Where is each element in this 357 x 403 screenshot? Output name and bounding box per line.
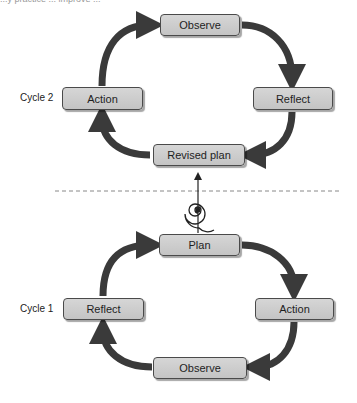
cycle1-observe-node: Observe [153,357,247,379]
cycle1-reflect-node: Reflect [63,298,144,320]
cycle2-action-node: Action [62,87,143,110]
cycle2-observe-node: Observe [160,14,240,36]
arrow-reflect-to-revised-plan [252,112,292,155]
spiral-icon [185,176,214,233]
arrow-observe-to-reflect [242,25,292,78]
cycle2-label: Cycle 2 [20,92,53,103]
arrow-reflect-to-plan [103,245,150,296]
cycle2-reflect-node: Reflect [253,87,333,110]
arrow-observe-to-reflect [103,330,152,367]
cycle1-action-node: Action [255,298,334,320]
arrow-action-to-observe [256,322,294,367]
arrow-revised-plan-to-action [102,118,150,155]
cycle1-plan-node: Plan [159,234,240,256]
arrow-action-to-observe [102,25,150,86]
arrow-plan-to-action [242,245,294,288]
diagram-arrows [0,0,357,403]
cycle2-revised-plan-node: Revised plan [153,144,245,166]
cycle1-label: Cycle 1 [20,303,53,314]
